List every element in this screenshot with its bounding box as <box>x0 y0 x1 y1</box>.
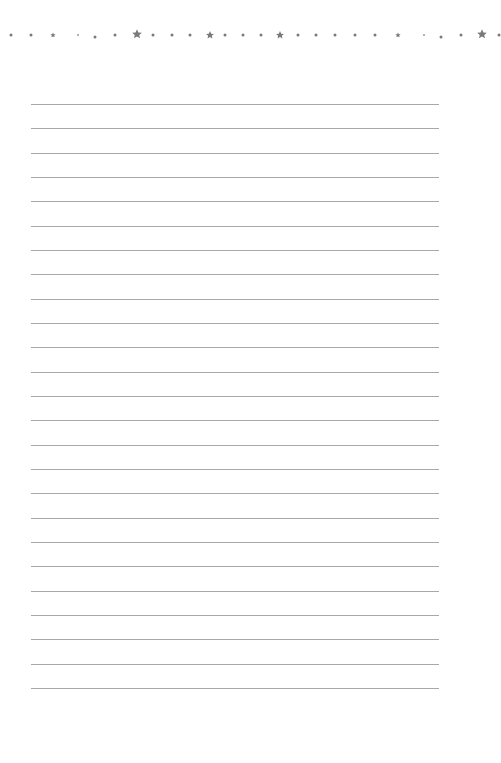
ruled-line <box>31 469 439 470</box>
ruled-line <box>31 664 439 665</box>
ruled-line <box>31 177 439 178</box>
ruled-line <box>31 226 439 227</box>
ruled-line <box>31 542 439 543</box>
ruled-line <box>31 274 439 275</box>
ruled-line <box>31 396 439 397</box>
ruled-line <box>31 639 439 640</box>
ruled-line <box>31 128 439 129</box>
ruled-line <box>31 104 439 105</box>
ruled-line <box>31 250 439 251</box>
ruled-line <box>31 372 439 373</box>
ruled-line <box>31 566 439 567</box>
lined-paper-page <box>0 0 501 763</box>
ruled-line <box>31 518 439 519</box>
ruled-line <box>31 153 439 154</box>
ruled-line <box>31 688 439 689</box>
ruled-line <box>31 323 439 324</box>
ruled-line <box>31 201 439 202</box>
ruled-line <box>31 347 439 348</box>
ruled-line <box>31 493 439 494</box>
writing-lines <box>0 0 501 763</box>
ruled-line <box>31 615 439 616</box>
ruled-line <box>31 591 439 592</box>
ruled-line <box>31 445 439 446</box>
ruled-line <box>31 420 439 421</box>
ruled-line <box>31 299 439 300</box>
